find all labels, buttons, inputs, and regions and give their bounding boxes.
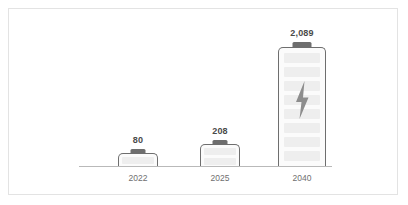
battery-segment [284,67,320,77]
value-label-2025: 208 [212,126,228,136]
battery-segment [122,157,154,164]
battery-body-2022 [118,153,158,166]
battery-segments-2025 [201,145,239,166]
battery-segment [284,53,320,63]
battery-segment [284,151,320,161]
battery-segment [284,123,320,133]
value-label-2040: 2,089 [290,28,314,38]
lightning-bolt-icon [292,80,312,120]
chart-frame: 80 208 [8,8,398,195]
battery-segments-2022 [119,154,157,166]
bar-group-2022[interactable]: 80 [103,135,173,166]
bar-group-2040[interactable]: 2,089 [267,28,337,166]
battery-icon-2040 [278,42,326,166]
battery-body-2040 [278,47,326,166]
battery-icon-2022 [118,149,158,166]
bar-group-2025[interactable]: 208 [185,126,255,166]
tick-label-2022: 2022 [103,173,173,183]
value-label-2022: 80 [133,135,143,145]
battery-segment [284,137,320,147]
battery-icon-2025 [200,140,240,166]
battery-body-2025 [200,144,240,166]
battery-segment [204,148,236,155]
x-axis-baseline [79,166,332,167]
tick-label-2040: 2040 [267,173,337,183]
plot-area: 80 208 [9,9,399,196]
battery-segment [204,158,236,165]
tick-label-2025: 2025 [185,173,255,183]
